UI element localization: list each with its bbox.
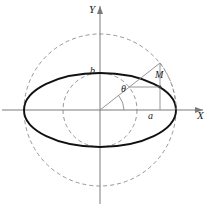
semi-major-axis-label: a (148, 111, 153, 121)
theta-angle-label: θ (121, 84, 126, 94)
semi-minor-axis-label: b (90, 66, 95, 76)
ellipse-figure: X Y b a M θ (0, 0, 213, 208)
y-axis-arrowhead (97, 6, 103, 14)
angle-arc (119, 96, 124, 110)
point-m-label: M (155, 70, 163, 80)
point-m-marker (159, 86, 162, 89)
y-axis-label: Y (89, 4, 95, 15)
radial-ray (100, 63, 160, 110)
x-axis-label: X (197, 110, 204, 121)
figure-canvas (0, 0, 213, 208)
